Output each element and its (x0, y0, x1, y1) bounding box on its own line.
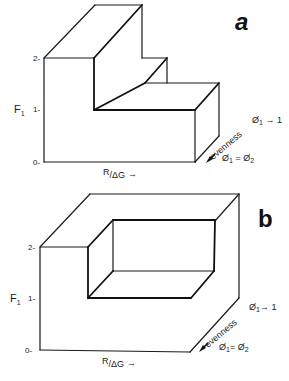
x-axis-label: R/ΔG→ (103, 167, 137, 180)
x-axis-label: R/ΔG→ (102, 356, 136, 369)
y-axis-label: F1 (14, 103, 25, 117)
y-tick-2: 2- (33, 54, 40, 63)
top-left-diagonal (44, 5, 95, 58)
y-tick-0: 0- (33, 158, 40, 167)
top-left-diagonal (40, 194, 90, 247)
figure-canvas: 2- 1- 0- F1 R/ΔG→ evenness Ø1 = Ø2 Ø1 → … (0, 0, 289, 381)
far-label: Ø1→ 1 (249, 302, 276, 313)
y-tick-1: 1- (28, 294, 35, 303)
panel-a-solid (44, 5, 219, 162)
cavity-right-riser (214, 220, 215, 271)
y-tick-1: 1- (33, 105, 40, 114)
panel-b: 2- 1- 0- F1 R/ΔG→ evenness Ø1= Ø2 Ø1→ 1 … (10, 194, 276, 369)
front-left-edge (40, 247, 88, 350)
near-label: Ø1= Ø2 (219, 342, 249, 353)
panel-label-b: b (258, 205, 273, 232)
cavity-floor-right-diagonal (191, 271, 214, 298)
y-axis-label: F1 (10, 292, 21, 306)
cavity-floor-left-diagonal (88, 271, 113, 298)
panel-label-a: a (235, 8, 248, 35)
far-label: Ø1 → 1 (252, 115, 282, 126)
top-right-diagonal (215, 194, 239, 221)
front-left-edge (44, 58, 94, 162)
right-top-diagonal (195, 83, 219, 110)
notch-diagonal (145, 58, 167, 83)
front-bottom-edge (40, 350, 190, 352)
cavity-left-top-diagonal (88, 220, 113, 247)
near-label: Ø1 = Ø2 (222, 153, 254, 164)
lower-step-diagonal (94, 83, 145, 110)
y-tick-2: 2- (28, 243, 35, 252)
panel-b-solid (40, 194, 239, 352)
y-tick-0: 0- (25, 346, 32, 355)
step-top-diagonal (94, 5, 142, 58)
panel-a: 2- 1- 0- F1 R/ΔG→ evenness Ø1 = Ø2 Ø1 → … (14, 5, 282, 180)
